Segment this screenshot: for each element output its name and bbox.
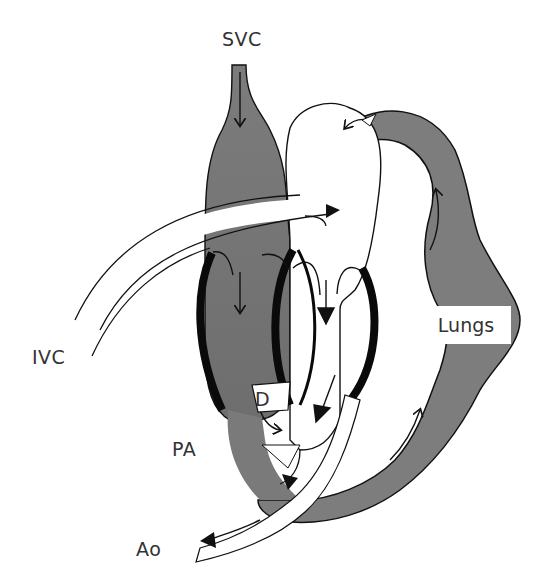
svc-label: SVC — [222, 28, 262, 50]
lungs-label: Lungs — [421, 306, 511, 344]
ivc-label: IVC — [32, 346, 65, 368]
circulation-diagram — [0, 0, 541, 576]
ao-label: Ao — [136, 538, 161, 560]
pa-label: PA — [172, 438, 196, 460]
ductus-label: D — [255, 388, 285, 416]
right-heart — [205, 65, 300, 500]
